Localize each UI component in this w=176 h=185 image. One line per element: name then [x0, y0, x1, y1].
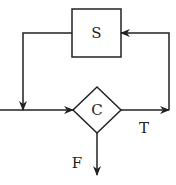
statement-box: S [72, 9, 121, 57]
loop-back-arrow [23, 33, 72, 110]
statement-label: S [91, 24, 101, 42]
condition-label: C [91, 101, 102, 119]
while-loop-diagram: S C T F [0, 0, 176, 185]
true-branch-label: T [139, 119, 149, 137]
false-branch-label: F [72, 154, 82, 172]
condition-diamond: C [73, 87, 121, 133]
to-statement-arrow [121, 33, 169, 110]
